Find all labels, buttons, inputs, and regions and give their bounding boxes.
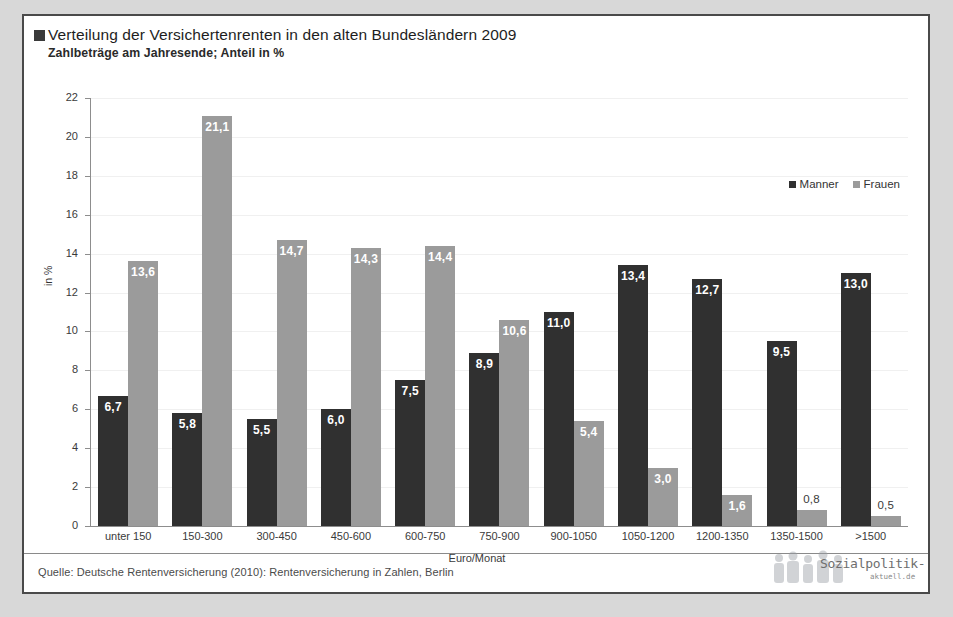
bar-frauen[interactable]: 14,4 — [425, 246, 455, 526]
bar-value-label: 5,5 — [253, 423, 270, 437]
bar-manner[interactable]: 13,4 — [618, 265, 648, 526]
bar-group: 5,514,7 — [240, 98, 314, 526]
bar-value-label: 13,0 — [844, 277, 868, 291]
bar-value-label: 14,3 — [354, 252, 378, 266]
page-title: Verteilung der Versichertenrenten in den… — [48, 26, 516, 43]
y-tick-label: 2 — [52, 480, 78, 492]
bar-group: 12,71,6 — [685, 98, 759, 526]
y-tick-label: 22 — [52, 91, 78, 103]
page-background: Verteilung der Versichertenrenten in den… — [0, 0, 953, 617]
x-tick-label: 600-750 — [388, 530, 462, 542]
bar-value-label: 5,4 — [580, 425, 597, 439]
x-axis-labels: unter 150150-300300-450450-600600-750750… — [91, 530, 908, 542]
y-tick-label: 18 — [52, 169, 78, 181]
bar-group: 9,50,8 — [759, 98, 833, 526]
y-tick-label: 10 — [52, 324, 78, 336]
bar-value-label: 8,9 — [476, 357, 493, 371]
chart-subtitle: Zahlbeträge am Jahresende; Anteil in % — [48, 46, 284, 60]
bar-manner[interactable]: 11,0 — [544, 312, 574, 526]
bar-frauen[interactable]: 10,6 — [499, 320, 529, 526]
bar-group: 6,713,6 — [91, 98, 165, 526]
bar-manner[interactable]: 12,7 — [692, 279, 722, 526]
bar-frauen[interactable]: 3,0 — [648, 468, 678, 526]
bar-value-label: 7,5 — [402, 384, 419, 398]
bar-manner[interactable]: 5,8 — [172, 413, 202, 526]
y-tick-label: 8 — [52, 363, 78, 375]
bar-value-label: 11,0 — [547, 316, 571, 330]
y-tick-label: 20 — [52, 130, 78, 142]
bar-manner[interactable]: 13,0 — [841, 273, 871, 526]
y-axis-title: in % — [42, 266, 54, 286]
bar-groups: 6,713,65,821,15,514,76,014,37,514,48,910… — [91, 98, 908, 526]
bar-value-label: 10,6 — [502, 324, 526, 338]
bar-frauen[interactable]: 13,6 — [128, 261, 158, 526]
x-tick-label: 1200-1350 — [685, 530, 759, 542]
sozialpolitik-logo[interactable]: Sozialpolitik- aktuell.de — [766, 546, 916, 590]
x-tick-label: unter 150 — [91, 530, 165, 542]
bar-value-label: 14,4 — [428, 250, 452, 264]
bar-manner[interactable]: 7,5 — [395, 380, 425, 526]
bar-frauen[interactable]: 1,6 — [722, 495, 752, 526]
y-tick-label: 14 — [52, 247, 78, 259]
bar-group: 13,43,0 — [611, 98, 685, 526]
bar-group: 7,514,4 — [388, 98, 462, 526]
y-tick-label: 12 — [52, 286, 78, 298]
bar-value-label: 5,8 — [179, 417, 196, 431]
bar-manner[interactable]: 6,0 — [321, 409, 351, 526]
bar-frauen[interactable]: 5,4 — [574, 421, 604, 526]
x-tick-label: 900-1050 — [537, 530, 611, 542]
bar-value-label: 12,7 — [695, 283, 719, 297]
bar-manner[interactable]: 9,5 — [767, 341, 797, 526]
x-axis-line — [90, 526, 908, 527]
bar-value-label: 9,5 — [773, 345, 790, 359]
bar-group: 13,00,5 — [834, 98, 908, 526]
bar-value-label: 3,0 — [654, 472, 671, 486]
bar-group: 11,05,4 — [537, 98, 611, 526]
chart-frame: Verteilung der Versichertenrenten in den… — [22, 14, 930, 594]
x-tick-label: 750-900 — [462, 530, 536, 542]
bar-value-label: 0,8 — [803, 493, 820, 505]
bar-value-label: 13,4 — [621, 269, 645, 283]
x-tick-label: 450-600 — [314, 530, 388, 542]
chart-title-row: Verteilung der Versichertenrenten in den… — [34, 26, 918, 43]
x-tick-label: 1050-1200 — [611, 530, 685, 542]
x-tick-label: >1500 — [834, 530, 908, 542]
bar-manner[interactable]: 5,5 — [247, 419, 277, 526]
bar-frauen[interactable]: 14,3 — [351, 248, 381, 526]
bar-frauen[interactable]: 21,1 — [202, 116, 232, 526]
bar-value-label: 6,7 — [104, 400, 121, 414]
y-tick-label: 4 — [52, 441, 78, 453]
bar-value-label: 13,6 — [131, 265, 155, 279]
bar-value-label: 14,7 — [280, 244, 304, 258]
x-tick-label: 1350-1500 — [759, 530, 833, 542]
bar-value-label: 21,1 — [205, 120, 229, 134]
x-tick-label: 300-450 — [240, 530, 314, 542]
bar-group: 5,821,1 — [165, 98, 239, 526]
bar-value-label: 6,0 — [327, 413, 344, 427]
bar-frauen[interactable]: 0,8 — [797, 510, 827, 526]
title-bullet-icon — [34, 30, 45, 41]
y-tick-label: 16 — [52, 208, 78, 220]
source-note: Quelle: Deutsche Rentenversicherung (201… — [38, 566, 454, 578]
bar-manner[interactable]: 6,7 — [98, 396, 128, 526]
bar-group: 8,910,6 — [462, 98, 536, 526]
bar-value-label: 1,6 — [729, 499, 746, 513]
bar-frauen[interactable]: 14,7 — [277, 240, 307, 526]
plot-area: in % 2220181614121086420 6,713,65,821,15… — [40, 80, 914, 542]
logo-brand-text: Sozialpolitik- — [820, 556, 925, 571]
y-tick-label: 6 — [52, 402, 78, 414]
bar-manner[interactable]: 8,9 — [469, 353, 499, 526]
logo-sub-text: aktuell.de — [870, 572, 915, 581]
y-tick-label: 0 — [52, 519, 78, 531]
bar-frauen[interactable]: 0,5 — [871, 516, 901, 526]
x-tick-label: 150-300 — [165, 530, 239, 542]
bar-value-label: 0,5 — [877, 499, 894, 511]
bar-group: 6,014,3 — [314, 98, 388, 526]
